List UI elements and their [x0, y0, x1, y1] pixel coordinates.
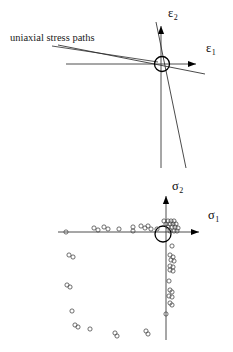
- sigma-1-arrowhead: [191, 229, 199, 235]
- data-point: [168, 253, 172, 257]
- scatter-points-layer: [64, 219, 180, 338]
- stress-strain-figure: ε2ε1uniaxial stress paths σ2σ1: [0, 0, 233, 352]
- sigma-2-arrowhead: [163, 196, 169, 204]
- data-point: [117, 227, 121, 231]
- data-point: [149, 227, 153, 231]
- data-point: [115, 334, 119, 338]
- strain-space-diagram: ε2ε1uniaxial stress paths: [10, 6, 216, 168]
- data-point: [102, 225, 106, 229]
- data-point: [144, 329, 148, 333]
- sigma-1-label: σ1: [208, 208, 219, 224]
- scatter-group-negative-sigma1-branch: [64, 224, 159, 234]
- data-point: [131, 229, 135, 233]
- data-point: [68, 285, 72, 289]
- data-point: [139, 224, 143, 228]
- uniaxial-stress-paths-label: uniaxial stress paths: [10, 32, 95, 43]
- data-point: [88, 327, 92, 331]
- data-point: [71, 255, 75, 259]
- data-point: [76, 325, 80, 329]
- data-point: [65, 283, 69, 287]
- data-point: [92, 226, 96, 230]
- uniaxial-shallow-path: [58, 45, 205, 74]
- data-point: [67, 253, 71, 257]
- data-point: [106, 227, 110, 231]
- annotation-leader-line: [52, 46, 158, 62]
- data-point: [162, 219, 166, 223]
- epsilon-1-label: ε1: [206, 41, 216, 57]
- data-point: [146, 332, 150, 336]
- data-point: [167, 279, 171, 283]
- data-point: [96, 228, 100, 232]
- data-point: [73, 323, 77, 327]
- epsilon-1-arrowhead: [188, 61, 196, 67]
- scatter-group-third-quadrant-envelope: [65, 253, 150, 338]
- stress-origin-marker: [155, 226, 171, 242]
- data-point: [143, 226, 147, 230]
- data-point: [170, 244, 174, 248]
- epsilon-2-arrowhead: [158, 26, 164, 34]
- data-point: [113, 331, 117, 335]
- epsilon-2-label: ε2: [168, 6, 178, 22]
- stress-space-diagram: σ2σ1: [58, 179, 219, 340]
- data-point: [171, 255, 175, 259]
- sigma-2-label: σ2: [172, 179, 183, 195]
- data-point: [70, 309, 74, 313]
- data-point: [131, 225, 135, 229]
- uniaxial-steep-path: [156, 22, 186, 168]
